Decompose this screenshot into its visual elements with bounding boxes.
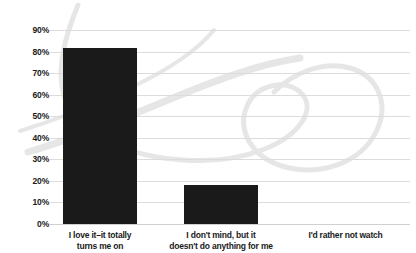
- gridline-0-baseline: [50, 224, 410, 225]
- y-axis-tick-90: 90%: [5, 26, 49, 35]
- x-axis-label-1-line-2: turns me on: [45, 241, 155, 252]
- y-axis-tick-80: 80%: [5, 48, 49, 57]
- y-axis-tick-20: 20%: [5, 177, 49, 186]
- bar-chart: 90% 80% 70% 60% 50% 40% 30% 20% 10% 0% I…: [0, 0, 416, 253]
- x-axis-label-3-line-1: I'd rather not watch: [283, 230, 408, 241]
- y-axis-tick-10: 10%: [5, 198, 49, 207]
- bar-category-2: [184, 185, 258, 224]
- x-axis-label-3: I'd rather not watch: [283, 230, 408, 241]
- y-axis-tick-50: 50%: [5, 112, 49, 121]
- y-axis-tick-60: 60%: [5, 91, 49, 100]
- y-axis-tick-30: 30%: [5, 155, 49, 164]
- y-axis-tick-40: 40%: [5, 134, 49, 143]
- x-axis-label-1: I love it–it totally turns me on: [45, 230, 155, 252]
- x-axis-label-1-line-1: I love it–it totally: [45, 230, 155, 241]
- x-axis-label-2-line-2: doesn't do anything for me: [156, 241, 286, 252]
- x-axis-label-2-line-1: I don't mind, but it: [156, 230, 286, 241]
- gridline-90: [50, 30, 410, 31]
- x-axis-label-2: I don't mind, but it doesn't do anything…: [156, 230, 286, 252]
- y-axis-tick-70: 70%: [5, 69, 49, 78]
- y-axis-tick-0: 0%: [5, 220, 49, 229]
- bar-category-1: [63, 48, 137, 224]
